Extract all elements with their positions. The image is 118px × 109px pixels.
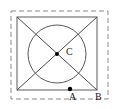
- point-label-B: B: [95, 92, 102, 102]
- point-label-A: A: [69, 92, 76, 102]
- point-C-dot: [55, 52, 59, 56]
- point-label-C: C: [66, 47, 73, 57]
- geometry-figure: C A B: [0, 0, 118, 109]
